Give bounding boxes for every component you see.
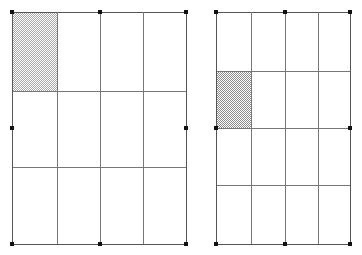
grid-line-vertical-1 bbox=[251, 12, 252, 244]
grid-line-vertical-2 bbox=[285, 12, 286, 244]
selection-handle-middle-right[interactable] bbox=[348, 126, 352, 130]
selection-handle-bottom-center[interactable] bbox=[283, 242, 287, 246]
selection-handle-bottom-right[interactable] bbox=[348, 242, 352, 246]
shaded-cell-r2-c1[interactable] bbox=[216, 71, 251, 128]
selection-handle-top-right[interactable] bbox=[348, 10, 352, 14]
right-grid-figure[interactable] bbox=[0, 0, 362, 255]
selection-handle-top-center[interactable] bbox=[283, 10, 287, 14]
grid-line-horizontal-2 bbox=[216, 128, 350, 129]
grid-line-horizontal-1 bbox=[216, 71, 350, 72]
selection-handle-bottom-left[interactable] bbox=[214, 242, 218, 246]
selection-handle-middle-left[interactable] bbox=[214, 126, 218, 130]
selection-handle-top-left[interactable] bbox=[214, 10, 218, 14]
grid-line-horizontal-3 bbox=[216, 185, 350, 186]
grid-line-vertical-3 bbox=[318, 12, 319, 244]
diagram-canvas bbox=[0, 0, 362, 255]
